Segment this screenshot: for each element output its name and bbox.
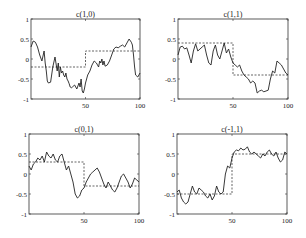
x-tick-label: 100: [283, 102, 294, 110]
y-tick-label: -1: [169, 211, 175, 219]
y-tick-label: -0.5: [18, 76, 30, 84]
y-tick-label: -1: [21, 211, 27, 219]
subplot-2: c(0,1)-1-0.500.5150100: [16, 125, 145, 225]
plot-canvas: c(1,0)-1-0.500.5150100c(1,1)-1-0.500.515…: [0, 0, 306, 238]
y-tick-label: 0.5: [18, 151, 27, 159]
figure: c(1,0)-1-0.500.5150100c(1,1)-1-0.500.515…: [0, 0, 306, 238]
y-tick-label: 0.5: [166, 151, 175, 159]
y-tick-label: -0.5: [16, 191, 28, 199]
subplot-title: c(-1,1): [221, 125, 243, 134]
x-tick-label: 50: [230, 102, 238, 110]
true-value-line: [29, 162, 139, 186]
y-tick-label: 0.5: [167, 36, 176, 44]
true-value-line: [31, 51, 140, 67]
subplot-title: c(1,1): [224, 10, 243, 19]
y-tick-label: -0.5: [164, 191, 176, 199]
estimate-line: [31, 39, 140, 93]
x-tick-label: 50: [82, 102, 90, 110]
y-tick-label: 1: [173, 16, 177, 24]
subplot-0: c(1,0)-1-0.500.5150100: [18, 10, 146, 110]
y-tick-label: 0: [173, 56, 177, 64]
y-tick-label: 0.5: [20, 36, 29, 44]
axes-box: [31, 19, 140, 99]
subplot-title: c(1,0): [76, 10, 95, 19]
y-tick-label: 0: [24, 171, 28, 179]
y-tick-label: -1: [23, 96, 29, 104]
y-tick-label: -0.5: [165, 76, 177, 84]
x-tick-label: 100: [134, 217, 145, 225]
subplot-3: c(-1,1)-1-0.500.5150100: [164, 125, 293, 225]
x-tick-label: 50: [229, 217, 237, 225]
y-tick-label: 1: [24, 131, 28, 139]
x-tick-label: 100: [282, 217, 293, 225]
subplot-title: c(0,1): [75, 125, 94, 134]
y-tick-label: 1: [26, 16, 30, 24]
x-tick-label: 100: [135, 102, 146, 110]
y-tick-label: 0: [172, 171, 176, 179]
y-tick-label: 1: [172, 131, 176, 139]
y-tick-label: -1: [170, 96, 176, 104]
x-tick-label: 50: [81, 217, 89, 225]
y-tick-label: 0: [26, 56, 30, 64]
estimate-line: [178, 43, 288, 93]
subplot-1: c(1,1)-1-0.500.5150100: [165, 10, 294, 110]
